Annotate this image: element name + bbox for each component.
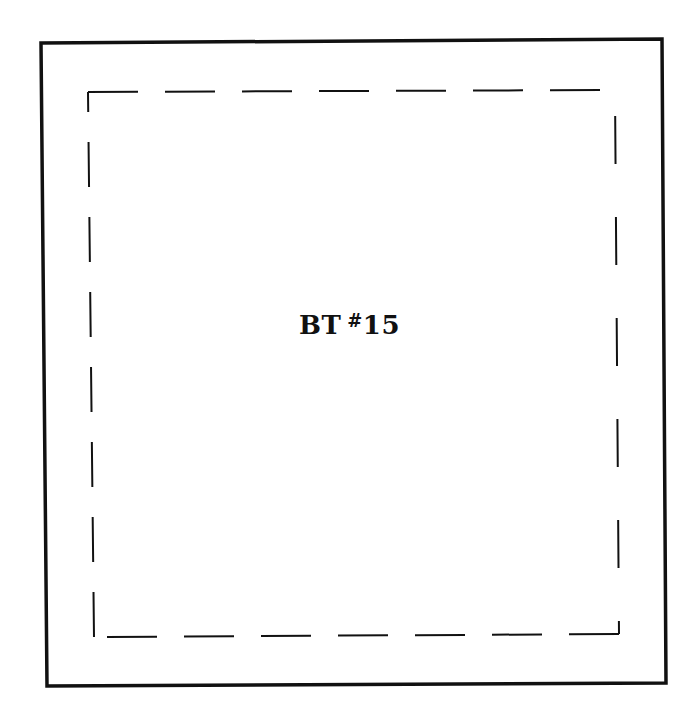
label-number: 15 [363, 310, 400, 340]
dashed-edge-top [88, 90, 615, 92]
outer-border [41, 39, 666, 686]
dashed-edge-bottom [94, 634, 619, 637]
label-hash: # [347, 310, 363, 331]
diagram-canvas [0, 0, 699, 709]
dashed-edge-right [615, 90, 619, 634]
dashed-inner-border [88, 90, 619, 637]
dashed-edge-left [88, 92, 94, 637]
box-label: BT#15 [0, 310, 699, 340]
label-prefix: BT [299, 310, 341, 340]
